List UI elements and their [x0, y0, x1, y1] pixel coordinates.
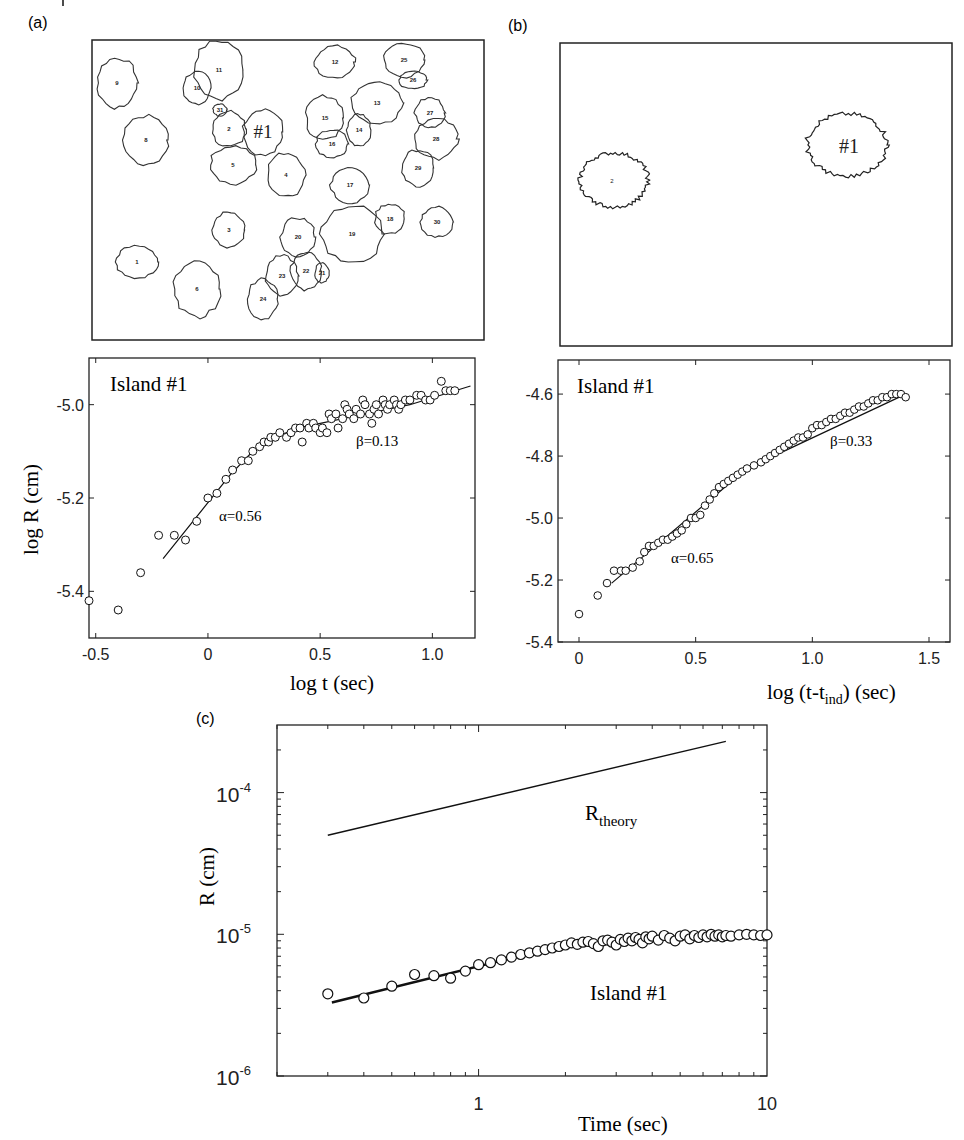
island-label: 3	[227, 227, 231, 233]
island-label: 4	[284, 172, 288, 178]
fit-line	[163, 386, 470, 559]
data-point	[193, 517, 201, 525]
data-point	[204, 494, 212, 502]
data-point	[137, 569, 145, 577]
data-point	[750, 462, 758, 470]
plot-c-ylabel: R (cm)	[195, 847, 219, 906]
plot-c-theory-main: R	[585, 801, 599, 825]
data-point	[298, 438, 306, 446]
data-point	[368, 419, 376, 427]
data-point	[594, 592, 602, 600]
data-point	[155, 531, 163, 539]
x-tick-label: 1.0	[421, 646, 443, 663]
figure: (a) (b) (c) 91110312#1854122526151314162…	[0, 0, 964, 1140]
y-tick-exp: -4	[239, 780, 251, 795]
data-point	[323, 989, 333, 999]
x-tick-label: 10	[757, 1094, 777, 1114]
y-tick-exp: -5	[239, 921, 251, 936]
data-point	[610, 567, 618, 575]
island-label: 12	[332, 59, 339, 65]
data-point	[507, 952, 517, 962]
y-tick-label: -5.2	[56, 490, 84, 507]
island-label: #1	[254, 121, 273, 142]
y-tick-exp: -6	[239, 1063, 251, 1078]
plot-c: 11010-410-510-6 Rtheory Island #1 Time (…	[195, 725, 777, 1136]
data-point	[762, 930, 772, 940]
plot-c-theory-label: Rtheory	[585, 801, 638, 829]
map-a-frame	[92, 40, 484, 340]
island-label: 28	[433, 136, 440, 142]
plot-b-xlabel: log (t-tind) (sec)	[767, 680, 896, 707]
map-b-frame	[560, 43, 952, 346]
y-tick-label: -5.0	[525, 510, 553, 527]
data-point	[486, 958, 496, 968]
data-point	[244, 457, 252, 465]
data-point	[182, 536, 190, 544]
data-point	[697, 511, 705, 519]
island-label: 27	[427, 110, 434, 116]
island-label: 23	[279, 273, 286, 279]
plot-a-frame	[89, 358, 475, 638]
island-label: 8	[144, 137, 148, 143]
data-point	[575, 610, 583, 618]
y-tick-base: 10	[216, 1066, 239, 1089]
theory-line	[328, 741, 726, 835]
plot-a-alpha-label: α=0.56	[219, 508, 262, 524]
island-label: 1	[135, 259, 139, 265]
panel-label-a: (a)	[28, 14, 48, 31]
data-point	[410, 970, 420, 980]
x-tick-label: 1	[474, 1094, 484, 1114]
data-point	[446, 973, 456, 983]
island-label: 18	[387, 216, 394, 222]
island-label: 19	[349, 231, 356, 237]
plot-b: 00.51.01.5-4.6-4.8-5.0-5.2-5.4 Island #1…	[525, 360, 950, 707]
island-label: 9	[115, 80, 119, 86]
x-tick-label: -0.5	[82, 646, 110, 663]
data-point	[222, 475, 230, 483]
island-label: 29	[415, 165, 422, 171]
data-point	[359, 993, 369, 1003]
island-label: 24	[260, 296, 267, 302]
y-tick-label: -5.2	[525, 572, 553, 589]
plot-a-annotation: Island #1	[110, 372, 188, 396]
plot-a-ylabel: log R (cm)	[19, 464, 43, 555]
panel-label-b: (b)	[508, 17, 528, 34]
island-label: 13	[374, 100, 381, 106]
data-point	[375, 410, 383, 418]
y-tick-label: 10-4	[216, 780, 251, 806]
y-tick-label: -4.8	[525, 448, 553, 465]
plot-a-beta-label: β=0.13	[356, 433, 398, 449]
island-map-b: 2#1	[560, 43, 952, 346]
data-point	[170, 531, 178, 539]
plot-b-beta-label: β=0.33	[830, 433, 872, 449]
plot-b-annotation: Island #1	[577, 374, 655, 398]
data-point	[361, 401, 369, 409]
island-label: 15	[322, 115, 329, 121]
y-tick-label: -5.4	[56, 583, 84, 600]
y-tick-base: 10	[216, 924, 239, 947]
data-point	[496, 955, 506, 965]
data-point	[387, 981, 397, 991]
data-point	[429, 971, 439, 981]
island-label: 17	[347, 182, 354, 188]
plot-b-xlabel-tail: ) (sec)	[843, 680, 896, 704]
island-label: 2	[610, 178, 614, 184]
x-tick-label: 0.5	[309, 646, 331, 663]
island-label: 30	[434, 219, 441, 225]
data-point	[85, 597, 93, 605]
island-label: 25	[401, 57, 408, 63]
y-tick-label: 10-6	[216, 1063, 251, 1089]
island-label: 10	[194, 85, 201, 91]
data-point	[114, 606, 122, 614]
x-tick-label: 1.5	[918, 650, 940, 667]
y-tick-label: -5.0	[56, 397, 84, 414]
island-label: 5	[231, 162, 235, 168]
plot-c-frame	[277, 725, 767, 1076]
data-point	[603, 579, 611, 587]
x-tick-label: 1.0	[801, 650, 823, 667]
data-point	[902, 393, 910, 401]
y-tick-base: 10	[216, 783, 239, 806]
island-map-a: 91110312#1854122526151314162728291732019…	[92, 40, 484, 340]
data-point	[431, 391, 439, 399]
data-point	[323, 429, 331, 437]
